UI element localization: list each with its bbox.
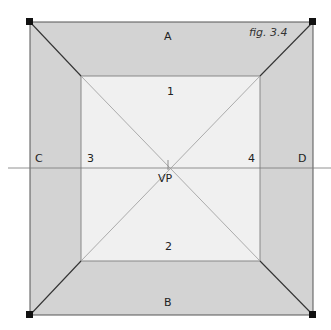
label-1: 1 <box>167 85 174 98</box>
label-3: 3 <box>87 152 94 165</box>
corner-marker-top-left <box>26 18 33 25</box>
label-a: A <box>164 30 172 43</box>
label-d: D <box>298 152 306 165</box>
label-b: B <box>164 296 172 309</box>
label-2: 2 <box>165 240 172 253</box>
corner-marker-top-right <box>309 18 316 25</box>
corner-marker-bottom-left <box>26 311 33 318</box>
label-vp: VP <box>158 172 173 185</box>
figure-caption: fig. 3.4 <box>249 26 288 39</box>
label-c: C <box>35 152 43 165</box>
perspective-diagram: A B C D 1 2 3 4 VP fig. 3.4 <box>0 0 331 330</box>
label-4: 4 <box>248 152 255 165</box>
corner-marker-bottom-right <box>309 311 316 318</box>
